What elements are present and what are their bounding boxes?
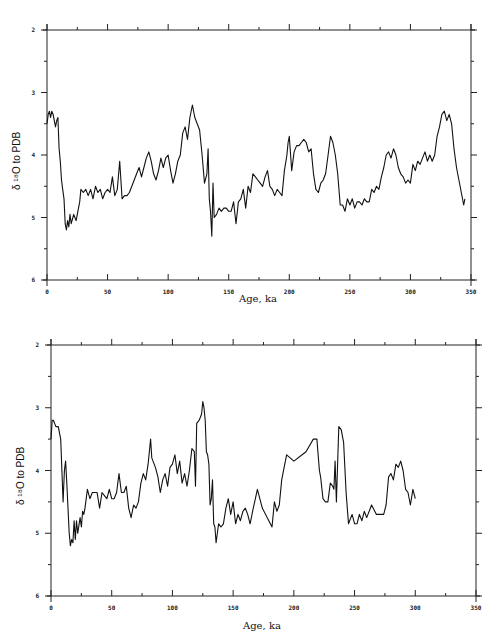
x-tick-label: 300 [405, 288, 416, 295]
bottom-x-axis-title: Age, ka [242, 620, 281, 631]
x-tick-label: 150 [228, 604, 239, 611]
top-data-line [47, 105, 465, 236]
bottom-data-line [51, 402, 415, 546]
x-tick-label: 50 [104, 288, 112, 295]
x-tick-label: 250 [344, 288, 355, 295]
y-tick-label: 3 [31, 89, 35, 96]
y-tick-label: 2 [31, 26, 35, 33]
x-tick-label: 200 [284, 288, 295, 295]
y-tick-label: 2 [35, 341, 39, 348]
top-x-axis-title: Age, ka [238, 293, 277, 304]
y-tick-label: 4 [31, 151, 35, 158]
y-tick-label: 6 [31, 276, 35, 283]
x-tick-label: 100 [167, 604, 178, 611]
x-tick-label: 250 [349, 604, 360, 611]
bottom-chart-panel: 05010015020025030035023456 Age, ka δ ¹⁸O… [15, 339, 482, 631]
y-tick-label: 4 [35, 467, 39, 474]
x-tick-label: 0 [49, 604, 53, 611]
y-tick-label: 5 [35, 529, 39, 536]
y-tick-label: 3 [35, 404, 39, 411]
y-tick-label: 6 [35, 592, 39, 599]
top-chart-panel: 05010015020025030035023456 Age, ka δ ¹⁸O… [11, 24, 477, 304]
top-axes-frame: 05010015020025030035023456 [31, 24, 477, 295]
x-tick-label: 200 [288, 604, 299, 611]
bottom-axes-frame: 05010015020025030035023456 [35, 339, 482, 611]
x-tick-label: 50 [108, 604, 116, 611]
x-tick-label: 300 [410, 604, 421, 611]
x-tick-label: 100 [163, 288, 174, 295]
x-tick-label: 0 [45, 288, 49, 295]
y-tick-label: 5 [31, 214, 35, 221]
x-tick-label: 150 [223, 288, 234, 295]
figure-two-panel-chart: 05010015020025030035023456 Age, ka δ ¹⁸O… [0, 0, 498, 644]
x-tick-label: 350 [471, 604, 482, 611]
bottom-y-axis-title: δ ¹⁸O to PDB [15, 447, 26, 505]
x-tick-label: 350 [466, 288, 477, 295]
top-y-axis-title: δ ¹⁸O to PDB [11, 132, 22, 190]
